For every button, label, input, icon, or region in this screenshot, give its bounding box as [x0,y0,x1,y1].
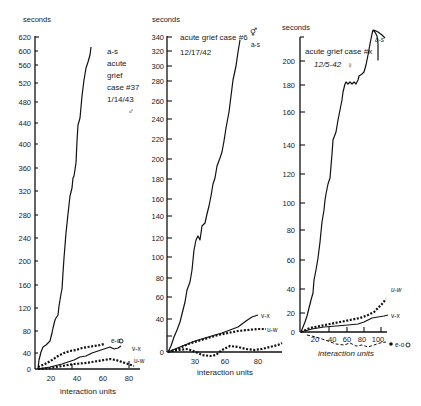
svg-text:a-s: a-s [107,47,118,56]
case-date: 12/5-42 [314,60,342,69]
svg-text:340: 340 [151,33,164,42]
svg-text:220: 220 [151,135,164,144]
svg-text:100: 100 [151,253,164,262]
svg-text:160: 160 [18,281,31,290]
series-a-s [168,40,240,352]
panel-case-x: seconds 200 180 160 140 120 100 80 60 40… [282,23,410,358]
svg-text:20: 20 [287,309,295,318]
svg-text:120: 120 [282,170,295,179]
svg-text:320: 320 [18,187,31,196]
female-symbol-icon: ♀ [347,61,353,70]
filled-dot-marker [389,342,393,346]
x-ticks: 30 60 80 [191,357,262,366]
case-title: acute grief case #x [305,47,372,56]
series-label-a-s: a-s [251,41,261,48]
svg-text:80: 80 [125,374,133,383]
male-symbol-icon: ♂ [128,107,134,116]
svg-text:480: 480 [18,98,31,107]
panel-case-37: seconds 620 600 560 520 480 440 400 360 … [18,15,144,396]
case-title: acute grief case #6 [180,33,248,42]
svg-text:acute: acute [107,59,127,68]
svg-text:160: 160 [151,195,164,204]
svg-text:320: 320 [151,47,164,56]
hermaphrodite-symbol-icon: ⚥ [250,27,257,37]
y-ticks: 200 180 160 140 120 100 80 60 40 20 0 [282,57,305,337]
svg-text:100: 100 [372,335,385,344]
svg-text:60: 60 [343,335,351,344]
x-axis-label: interaction units [60,387,116,396]
svg-text:240: 240 [18,234,31,243]
svg-text:60: 60 [287,256,295,265]
y-axis-label: seconds [23,15,51,24]
y-axis-label: seconds [152,15,180,24]
svg-text:0: 0 [27,365,31,374]
svg-text:280: 280 [18,211,31,220]
y-ticks: 340 320 300 280 260 240 220 200 180 160 … [151,33,172,357]
svg-text:80: 80 [23,327,31,336]
svg-text:520: 520 [18,79,31,88]
svg-text:360: 360 [18,164,31,173]
x-axis-label: interaction units [197,368,253,377]
svg-text:260: 260 [151,97,164,106]
series-label-e-o: e-o [395,341,405,348]
open-circle-marker [406,343,410,347]
case-annotation: a-s acute grief case #37 1/14/43 ♂ [107,47,140,116]
svg-text:0: 0 [160,348,164,357]
x-ticks: 20 40 60 80 [47,374,133,383]
svg-text:120: 120 [151,234,164,243]
series-label-v-x: v-x [391,312,400,319]
svg-text:140: 140 [151,212,164,221]
svg-text:80: 80 [156,274,164,283]
series-label-a-s: a-s [375,36,385,43]
svg-text:620: 620 [18,33,31,42]
svg-text:40: 40 [73,374,81,383]
x-ticks: 20 -40 60 80 100 [311,327,384,344]
panel-case-6: seconds 340 320 300 280 260 240 220 200 … [151,15,282,377]
svg-text:280: 280 [151,77,164,86]
svg-text:200: 200 [151,155,164,164]
y-axis-label: seconds [282,23,310,32]
svg-text:100: 100 [282,199,295,208]
svg-text:0: 0 [291,328,295,337]
series-u-w [301,299,386,332]
svg-text:600: 600 [18,47,31,56]
svg-text:80: 80 [254,357,262,366]
svg-text:120: 120 [18,304,31,313]
svg-text:440: 440 [18,119,31,128]
series-label-u-w: u-w [391,286,403,293]
series-v-x [38,346,121,369]
svg-text:grief: grief [107,71,123,80]
svg-text:180: 180 [282,81,295,90]
svg-text:40: 40 [23,349,31,358]
svg-text:60: 60 [99,374,107,383]
series-label-u-w: u-w [134,357,145,364]
svg-text:20: 20 [47,374,55,383]
series-label-v-x: v-x [132,345,141,352]
series-v-x [301,315,388,332]
svg-text:1/14/43: 1/14/43 [107,95,134,104]
figure: seconds 620 600 560 520 480 440 400 360 … [0,0,421,406]
svg-text:40: 40 [156,315,164,324]
svg-text:30: 30 [191,357,199,366]
svg-text:160: 160 [282,108,295,117]
svg-text:40: 40 [287,285,295,294]
series-label-v-x: v-x [261,312,270,319]
svg-text:180: 180 [151,175,164,184]
svg-text:400: 400 [18,140,31,149]
series-a-s [301,30,378,332]
svg-text:80: 80 [287,226,295,235]
case-date: 12/17/42 [180,48,212,57]
svg-text:300: 300 [151,62,164,71]
svg-text:80: 80 [358,335,366,344]
svg-text:560: 560 [18,61,31,70]
svg-text:240: 240 [151,115,164,124]
svg-text:200: 200 [18,257,31,266]
x-axis-label: interaction units [318,349,374,358]
svg-text:case #37: case #37 [107,83,140,92]
svg-text:140: 140 [282,141,295,150]
series-label-u-w: u-w [267,326,278,333]
svg-text:200: 200 [282,57,295,66]
series-a-s [38,47,91,369]
svg-text:60: 60 [156,293,164,302]
svg-text:60: 60 [221,357,229,366]
